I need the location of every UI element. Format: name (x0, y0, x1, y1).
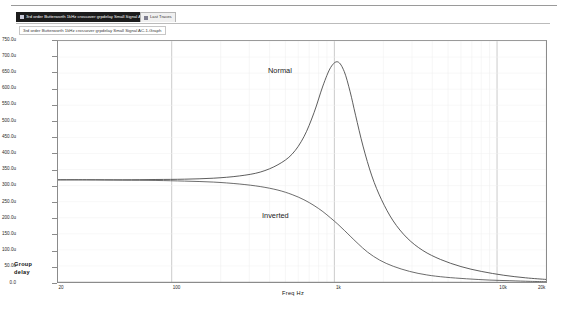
tab-strip: 3rd order Butterworth 1kHz crossover grp… (16, 12, 550, 24)
y-tick-label: 750.0u (0, 38, 16, 43)
y-tick-mark (52, 72, 57, 73)
y-tick-label: 50.0u (0, 264, 16, 269)
y-tick-mark (52, 121, 57, 122)
x-tick-label: 100 (173, 286, 181, 291)
y-tick-mark (52, 137, 57, 138)
y-tick-mark (52, 170, 57, 171)
y-tick-label: 400.0u (0, 151, 16, 156)
x-tick-label: 1k (336, 286, 341, 291)
y-tick-mark (52, 153, 57, 154)
y-tick-label: 550.0u (0, 102, 16, 107)
curve-layer (58, 41, 546, 282)
graph-icon (144, 16, 148, 20)
y-tick-label: 600.0u (0, 86, 16, 91)
curve-label-inverted: Inverted (262, 211, 289, 220)
y-tick-mark (52, 186, 57, 187)
page-title: 3rd order Butterworth 1kHz crossover grp… (23, 28, 161, 33)
x-tick-label: 10k (499, 286, 506, 291)
y-tick-mark (52, 251, 57, 252)
y-tick-label: 500.0u (0, 119, 16, 124)
y-tick-label: 650.0u (0, 70, 16, 75)
graph-window: 3rd order Butterworth 1kHz crossover grp… (0, 0, 567, 319)
plot-area[interactable] (57, 40, 547, 283)
y-tick-label: 200.0u (0, 216, 16, 221)
plot-canvas (58, 41, 546, 282)
y-tick-label: 450.0u (0, 135, 16, 140)
grid-layer (58, 41, 546, 282)
curve-normal (58, 62, 546, 280)
graph-icon (20, 15, 24, 19)
graph-title-bar: 3rd order Butterworth 1kHz crossover grp… (19, 26, 166, 35)
y-tick-label: 0.0 (0, 281, 16, 286)
y-tick-mark (52, 202, 57, 203)
y-tick-label: 250.0u (0, 200, 16, 205)
y-tick-label: 150.0u (0, 232, 16, 237)
y-tick-mark (52, 56, 57, 57)
y-tick-mark (52, 105, 57, 106)
y-tick-label: 350.0u (0, 167, 16, 172)
x-tick-label: 20 (59, 286, 64, 291)
y-tick-mark (52, 234, 57, 235)
y-tick-mark (52, 283, 57, 284)
y-tick-mark (52, 267, 57, 268)
y-tick-mark (52, 89, 57, 90)
y-tick-label: 300.0u (0, 183, 16, 188)
x-axis-caption: Freq Hz (282, 290, 304, 296)
y-axis-caption-line2: delay (14, 269, 32, 277)
tab-last-traces[interactable]: Last Traces (140, 12, 176, 22)
top-divider (11, 5, 557, 6)
series-layer (58, 62, 546, 282)
y-tick-mark (52, 218, 57, 219)
x-tick-label: 20k (538, 286, 545, 291)
y-axis-caption-line1: Group (14, 261, 32, 269)
y-tick-label: 100.0u (0, 248, 16, 253)
y-tick-mark (52, 40, 57, 41)
tab-label: Last Traces (150, 15, 172, 19)
y-tick-label: 700.0u (0, 54, 16, 59)
curve-label-normal: Normal (268, 66, 292, 75)
y-axis-caption: Group delay (14, 261, 32, 276)
curve-inverted (58, 180, 546, 282)
